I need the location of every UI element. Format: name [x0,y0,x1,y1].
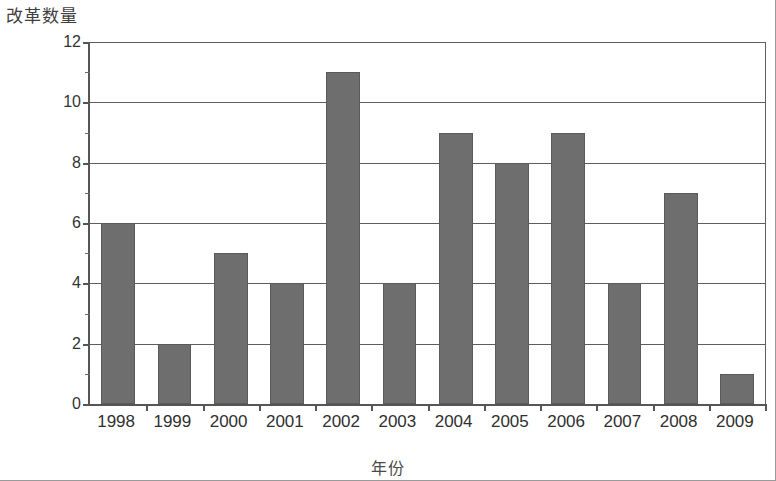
y-tick-mark-10 [83,102,90,104]
x-tick-label-1999: 1999 [153,412,191,432]
gridline-8 [90,163,765,164]
gridline-12 [90,42,765,43]
x-tick-label-2004: 2004 [435,412,473,432]
plot-area: 024681012 [88,42,765,406]
x-tick-label-2005: 2005 [491,412,529,432]
x-tick-label-1998: 1998 [97,412,135,432]
y-tick-mark-6 [83,223,90,225]
x-tick-label-2001: 2001 [266,412,304,432]
bar-2008 [664,193,698,404]
bar-2007 [608,283,642,404]
y-minor-tick-7 [85,193,90,194]
y-minor-tick-3 [85,314,90,315]
x-tick-mark-2001 [315,404,317,411]
x-tick-label-2008: 2008 [660,412,698,432]
y-axis-title: 改革数量 [6,2,78,27]
y-tick-label-6: 6 [72,214,81,232]
x-tick-mark-1998 [146,404,148,411]
chart-figure: 改革数量 024681012 1998199920002001200220032… [0,0,776,481]
y-tick-mark-4 [83,283,90,285]
y-tick-mark-12 [83,42,90,44]
x-tick-mark-2008 [709,404,711,411]
y-tick-label-10: 10 [63,93,81,111]
bar-1999 [158,344,192,404]
bar-2001 [270,283,304,404]
x-tick-mark-2007 [653,404,655,411]
y-minor-tick-11 [85,72,90,73]
bar-2006 [551,133,585,405]
bar-1998 [101,223,135,404]
x-tick-mark-2009 [765,404,767,411]
x-tick-label-2009: 2009 [716,412,754,432]
x-tick-label-2000: 2000 [210,412,248,432]
x-axis-title: 年份 [0,455,776,479]
y-tick-mark-2 [83,344,90,346]
y-tick-mark-8 [83,163,90,165]
y-minor-tick-5 [85,253,90,254]
bar-2009 [720,374,754,404]
bar-2003 [383,283,417,404]
y-tick-label-2: 2 [72,335,81,353]
bar-2002 [326,72,360,404]
x-tick-mark-2003 [428,404,430,411]
bar-2000 [214,253,248,404]
x-tick-mark-2004 [484,404,486,411]
y-minor-tick-1 [85,374,90,375]
bar-2004 [439,133,473,405]
x-tick-label-2003: 2003 [378,412,416,432]
bar-2005 [495,163,529,404]
y-tick-label-0: 0 [72,395,81,413]
y-tick-mark-0 [83,404,90,406]
plot-right-edge [765,42,766,404]
y-tick-label-4: 4 [72,274,81,292]
x-tick-mark-2002 [371,404,373,411]
x-tick-label-2007: 2007 [603,412,641,432]
x-tick-mark-2006 [596,404,598,411]
x-tick-label-2002: 2002 [322,412,360,432]
y-tick-label-12: 12 [63,33,81,51]
y-minor-tick-9 [85,133,90,134]
gridline-10 [90,102,765,103]
x-tick-mark-2000 [259,404,261,411]
x-tick-label-2006: 2006 [547,412,585,432]
x-tick-mark-2005 [540,404,542,411]
y-tick-label-8: 8 [72,154,81,172]
x-tick-mark-1999 [203,404,205,411]
